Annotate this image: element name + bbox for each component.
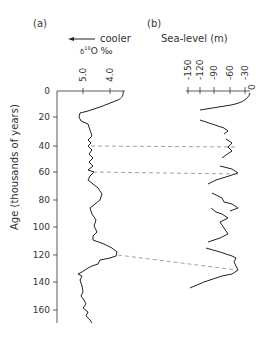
svg-text:100: 100 xyxy=(33,222,50,232)
correlation-lines xyxy=(91,146,238,270)
chart-canvas: Age (thousands of years) 5.0 4.0 0 20 40… xyxy=(0,0,257,339)
svg-text:20: 20 xyxy=(39,112,51,122)
svg-text:140: 140 xyxy=(33,277,50,287)
svg-text:0: 0 xyxy=(247,84,257,90)
svg-text:-90: -90 xyxy=(209,65,219,80)
svg-text:5.0: 5.0 xyxy=(78,67,88,82)
svg-text:-30: -30 xyxy=(240,65,250,80)
svg-text:-150: -150 xyxy=(183,59,193,80)
y-tick-labels: 0 20 40 60 80 100 120 140 160 xyxy=(33,86,50,315)
panel-a-axes xyxy=(53,88,125,323)
svg-text:80: 80 xyxy=(39,195,51,205)
panel-b-axes xyxy=(186,87,250,94)
svg-text:120: 120 xyxy=(33,250,50,260)
svg-text:0: 0 xyxy=(44,86,50,96)
svg-text:-60: -60 xyxy=(225,65,235,80)
svg-text:160: 160 xyxy=(33,305,50,315)
svg-text:4.0: 4.0 xyxy=(105,67,115,82)
sea-level-curve xyxy=(190,93,250,288)
panel-a-x-tick-labels: 5.0 4.0 xyxy=(78,67,115,82)
y-axis-title: Age (thousands of years) xyxy=(9,104,20,230)
cooler-arrow-icon xyxy=(68,37,95,41)
svg-text:-120: -120 xyxy=(195,59,205,80)
svg-text:60: 60 xyxy=(39,167,51,177)
panel-b-x-tick-labels: -150 -120 -90 -60 -30 0 xyxy=(183,59,257,90)
delta18o-curve xyxy=(78,91,123,323)
svg-text:40: 40 xyxy=(39,141,51,151)
